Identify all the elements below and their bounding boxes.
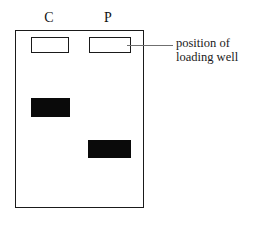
loading-well-c (31, 37, 69, 53)
gel-slab (15, 30, 144, 208)
lane-label-p: P (96, 11, 120, 25)
annotation-line-1: position of (176, 36, 262, 50)
annotation-line-2: loading well (176, 50, 262, 64)
dna-band-lane-c (31, 98, 70, 117)
annotation-leader-line (127, 45, 173, 46)
loading-well-p (89, 37, 131, 53)
lane-label-c: C (37, 11, 61, 25)
annotation-label: position of loading well (176, 36, 262, 64)
gel-electrophoresis-figure: C P position of loading well (0, 0, 264, 226)
dna-band-lane-p (88, 140, 131, 158)
